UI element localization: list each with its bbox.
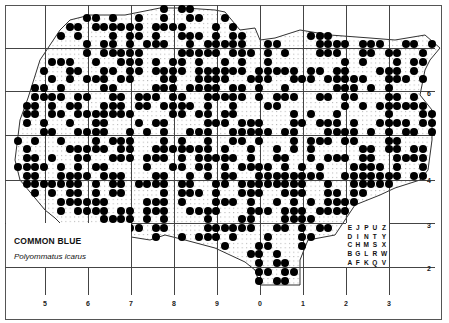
tetrad-letter: P <box>362 223 371 232</box>
record-dot <box>419 172 427 180</box>
record-dot <box>385 128 393 136</box>
record-dot <box>376 172 384 180</box>
record-dot <box>100 163 108 171</box>
record-dot <box>273 40 281 48</box>
record-dot <box>23 154 31 162</box>
record-dot <box>316 172 324 180</box>
tetrad-letter: U <box>371 223 379 232</box>
record-dot <box>100 102 108 110</box>
record-dot <box>100 172 108 180</box>
record-dot <box>195 207 203 215</box>
record-dot <box>324 137 332 145</box>
record-dot <box>109 23 117 31</box>
northing-label: 2 <box>427 265 431 272</box>
record-dot <box>376 67 384 75</box>
record-dot <box>83 49 91 57</box>
record-dot <box>135 23 143 31</box>
record-dot <box>57 163 65 171</box>
record-dot <box>40 84 48 92</box>
record-dot <box>221 93 229 101</box>
easting-label: 3 <box>387 300 391 307</box>
record-dot <box>255 67 263 75</box>
record-dot <box>212 67 220 75</box>
record-dot <box>195 32 203 40</box>
record-dot <box>273 145 281 153</box>
record-dot <box>23 180 31 188</box>
record-dot <box>204 84 212 92</box>
record-dot <box>135 49 143 57</box>
record-dot <box>290 172 298 180</box>
record-dot <box>428 119 436 127</box>
record-dot <box>247 224 255 232</box>
record-dot <box>117 207 125 215</box>
record-dot <box>264 233 272 241</box>
record-dot <box>221 119 229 127</box>
record-dot <box>169 93 177 101</box>
record-dot <box>152 32 160 40</box>
record-dot <box>92 137 100 145</box>
species-scientific-name: Polyommatus icarus <box>14 252 86 261</box>
record-dot <box>178 32 186 40</box>
record-dot <box>281 268 289 276</box>
record-dot <box>57 58 65 66</box>
record-dot <box>255 242 263 250</box>
record-dot <box>92 75 100 83</box>
tetrad-letter: T <box>371 232 379 241</box>
grid-horizontal-line <box>5 267 435 268</box>
record-dot <box>264 58 272 66</box>
record-dot <box>402 154 410 162</box>
record-dot <box>195 67 203 75</box>
record-dot <box>204 207 212 215</box>
record-dot <box>247 119 255 127</box>
record-dot <box>255 172 263 180</box>
record-dot <box>307 233 315 241</box>
record-dot <box>333 189 341 197</box>
record-dot <box>74 32 82 40</box>
tetrad-letter: I <box>354 232 362 241</box>
record-dot <box>376 163 384 171</box>
record-dot <box>109 84 117 92</box>
record-dot <box>31 172 39 180</box>
tetrad-letter: J <box>354 223 362 232</box>
record-dot <box>359 102 367 110</box>
record-dot <box>117 137 125 145</box>
record-dot <box>316 49 324 57</box>
record-dot <box>83 207 91 215</box>
record-dot <box>393 67 401 75</box>
tetrad-letter: N <box>362 232 371 241</box>
record-dot <box>290 137 298 145</box>
record-dot <box>247 154 255 162</box>
record-dot <box>178 58 186 66</box>
record-dot <box>212 207 220 215</box>
record-dot <box>290 198 298 206</box>
record-dot <box>109 14 117 22</box>
easting-label: 5 <box>43 300 47 307</box>
easting-label: 6 <box>86 300 90 307</box>
record-dot <box>238 32 246 40</box>
record-dot <box>152 23 160 31</box>
record-dot <box>281 67 289 75</box>
record-dot <box>31 137 39 145</box>
record-dot <box>281 93 289 101</box>
record-dot <box>385 145 393 153</box>
record-dot <box>204 102 212 110</box>
record-dot <box>333 198 341 206</box>
record-dot <box>385 110 393 118</box>
record-dot <box>83 93 91 101</box>
record-dot <box>333 154 341 162</box>
record-dot <box>57 32 65 40</box>
tetrad-letter: W <box>379 249 389 258</box>
record-dot <box>238 58 246 66</box>
record-dot <box>221 154 229 162</box>
record-dot <box>126 67 134 75</box>
record-dot <box>135 102 143 110</box>
tetrad-letter: D <box>346 232 354 241</box>
record-dot <box>109 32 117 40</box>
record-dot <box>290 128 298 136</box>
record-dot <box>333 207 341 215</box>
record-dot <box>350 93 358 101</box>
record-dot <box>402 102 410 110</box>
record-dot <box>255 207 263 215</box>
record-dot <box>109 49 117 57</box>
record-dot <box>264 49 272 57</box>
